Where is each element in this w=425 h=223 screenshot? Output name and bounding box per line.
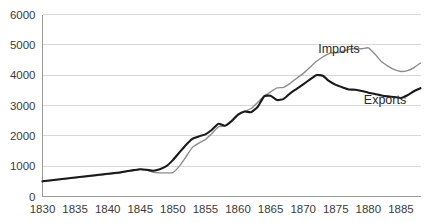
y-tick-label: 4000 <box>10 69 36 81</box>
series-paths-group <box>43 48 421 182</box>
chart-canvas: 0100020003000400050006000 18301835184018… <box>0 0 425 223</box>
x-tick-label: 1870 <box>290 203 316 215</box>
x-tick-label: 1880 <box>356 203 382 215</box>
x-tick-label: 1885 <box>388 203 414 215</box>
x-tick-label: 1840 <box>95 203 121 215</box>
y-tick-label: 2000 <box>10 130 36 142</box>
series-annotations-group: ImportsExports <box>318 42 406 107</box>
x-tick-label: 1830 <box>30 203 56 215</box>
y-tick-label: 0 <box>29 191 35 203</box>
y-tick-label: 5000 <box>10 39 36 51</box>
y-tick-label: 1000 <box>10 160 36 172</box>
x-tick-label: 1855 <box>193 203 219 215</box>
series-annotation-exports: Exports <box>364 93 406 107</box>
y-tick-label: 3000 <box>10 100 36 112</box>
x-tick-label: 1835 <box>62 203 88 215</box>
series-line-exports <box>43 75 421 181</box>
line-chart: 0100020003000400050006000 18301835184018… <box>0 0 425 223</box>
x-tick-labels-group: 1830183518401845185018551860186518701875… <box>30 203 414 215</box>
y-tick-labels-group: 0100020003000400050006000 <box>10 9 36 203</box>
x-tick-label: 1860 <box>225 203 251 215</box>
x-tick-label: 1865 <box>258 203 284 215</box>
series-annotation-imports: Imports <box>318 42 360 56</box>
gridlines-group <box>43 15 421 167</box>
x-tick-label: 1875 <box>323 203 349 215</box>
x-tick-label: 1845 <box>127 203 153 215</box>
y-tick-label: 6000 <box>10 9 36 21</box>
x-tick-label: 1850 <box>160 203 186 215</box>
series-line-imports <box>43 48 421 182</box>
